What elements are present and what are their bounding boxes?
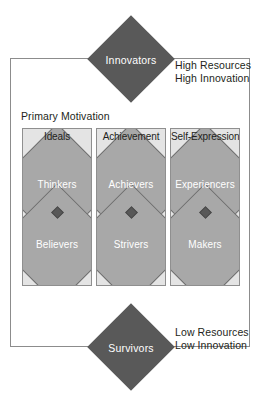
motivation-columns: Ideals Thinkers Believers Achievement Ac… bbox=[22, 128, 240, 286]
column-header-achievement: Achievement bbox=[97, 129, 165, 142]
survivors-label: Survivors bbox=[71, 342, 191, 354]
vals-framework-diagram: Innovators High Resources High Innovatio… bbox=[0, 0, 261, 399]
innovators-label: Innovators bbox=[71, 54, 191, 66]
low-resources-line1: Low Resources bbox=[175, 326, 249, 339]
high-innovation-line2: High Innovation bbox=[175, 72, 251, 85]
column-ideals: Ideals Thinkers Believers bbox=[22, 128, 92, 286]
column-header-ideals: Ideals bbox=[23, 129, 91, 142]
column-self-expression: Self-Expression Experiencers Makers bbox=[170, 128, 240, 286]
primary-motivation-label: Primary Motivation bbox=[21, 110, 110, 122]
column-header-self-expression: Self-Expression bbox=[171, 129, 239, 142]
column-achievement: Achievement Achievers Strivers bbox=[96, 128, 166, 286]
